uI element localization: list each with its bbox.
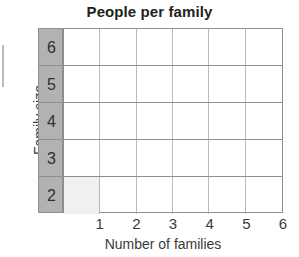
grid-cell <box>100 29 136 65</box>
grid-cell <box>137 177 173 214</box>
y-axis-label-column: 65432 <box>38 28 63 213</box>
grid-cell <box>64 66 100 102</box>
x-axis-tick-label: 1 <box>88 215 112 232</box>
grid-cell <box>64 140 100 176</box>
grid-cell <box>246 29 282 65</box>
grid-row <box>64 29 282 66</box>
grid-cell <box>100 103 136 139</box>
plot-grid <box>63 28 283 213</box>
grid-cell <box>100 177 136 214</box>
grid-cell <box>173 103 209 139</box>
grid-cell <box>173 29 209 65</box>
grid-row <box>64 66 282 103</box>
grid-cell <box>173 177 209 214</box>
grid-cell <box>209 29 245 65</box>
grid-cell <box>137 103 173 139</box>
grid-row <box>64 177 282 214</box>
y-axis-tick-label: 3 <box>39 140 64 177</box>
grid-cell <box>209 103 245 139</box>
x-axis-tick-label: 5 <box>234 215 258 232</box>
y-axis-tick-label: 5 <box>39 66 64 103</box>
pictograph-chart: People per family Family size 65432 1234… <box>0 0 299 257</box>
grid-cell <box>137 140 173 176</box>
y-axis-tick-label: 4 <box>39 103 64 140</box>
grid-row <box>64 103 282 140</box>
grid-cell <box>246 177 282 214</box>
x-axis-tick-label: 6 <box>271 215 295 232</box>
grid-cell <box>100 66 136 102</box>
x-axis-tick-label: 4 <box>198 215 222 232</box>
y-axis-tick-label: 2 <box>39 177 64 214</box>
grid-cell <box>246 66 282 102</box>
grid-cell <box>209 177 245 214</box>
grid-cell <box>246 103 282 139</box>
y-axis-tick-label: 6 <box>39 29 64 66</box>
grid-cell <box>137 29 173 65</box>
x-axis-tick-label: 3 <box>161 215 185 232</box>
grid-cell <box>209 66 245 102</box>
chart-title: People per family <box>0 3 299 20</box>
x-axis-title: Number of families <box>38 236 288 252</box>
grid-cell <box>137 66 173 102</box>
grid-cell <box>173 66 209 102</box>
grid-cell <box>64 103 100 139</box>
grid-cell <box>64 29 100 65</box>
grid-row <box>64 140 282 177</box>
x-axis-tick-label: 2 <box>124 215 148 232</box>
grid-cell <box>100 140 136 176</box>
grid-cell <box>173 140 209 176</box>
bar-segment <box>64 177 100 214</box>
grid-cell <box>209 140 245 176</box>
left-edge-rule <box>2 45 4 87</box>
grid-cell <box>246 140 282 176</box>
